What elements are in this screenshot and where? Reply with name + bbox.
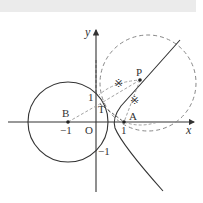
x-axis-label: x xyxy=(185,123,192,137)
tick-y-neg1: −1 xyxy=(98,145,110,157)
tick-x-pos1: 1 xyxy=(121,124,127,136)
point-b-label: B xyxy=(62,107,69,119)
point-t-label: T xyxy=(98,103,105,115)
tick-x-neg1: −1 xyxy=(60,124,72,136)
hyperbola-branch xyxy=(114,40,180,191)
equal-mark-2: ※ xyxy=(130,94,139,106)
point-p xyxy=(138,78,142,82)
geometry-figure: ※ ※ y x O −1 1 1 −1 B A P T xyxy=(0,0,203,203)
tick-y-pos1: 1 xyxy=(88,91,94,103)
equal-mark-1: ※ xyxy=(114,77,123,89)
point-a-label: A xyxy=(129,110,137,122)
diagram-canvas: ※ ※ y x O −1 1 1 −1 B A P T xyxy=(0,0,203,203)
y-axis-label: y xyxy=(84,25,91,39)
origin-label: O xyxy=(85,124,93,136)
point-p-label: P xyxy=(136,66,142,78)
